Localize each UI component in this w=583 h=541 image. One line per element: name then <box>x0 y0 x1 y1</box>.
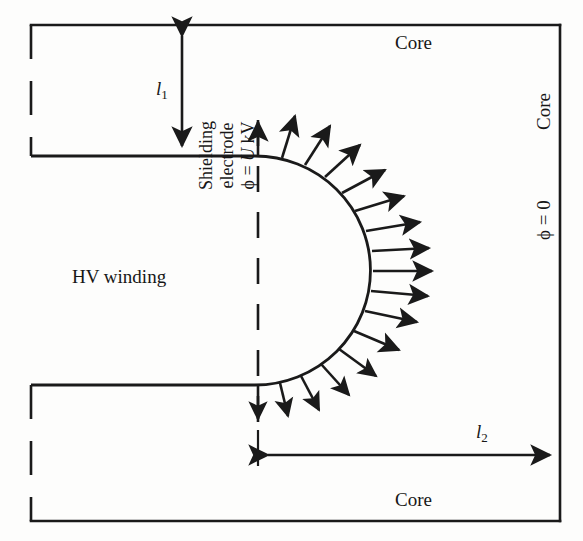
field-arrow <box>305 126 330 165</box>
label-phi-zero: ϕ = 0 <box>533 200 555 240</box>
field-arrow <box>366 222 420 231</box>
label-dimension-l1: l1 <box>156 78 168 102</box>
label-shielding-electrode-potential: ϕ = U kV <box>238 121 259 190</box>
label-core-top: Core <box>395 32 432 54</box>
label-core-bottom: Core <box>395 489 432 511</box>
label-l1-subscript: 1 <box>161 87 168 102</box>
label-shielding-electrode-line1: Shielding <box>196 121 217 190</box>
label-l2-subscript: 2 <box>481 430 488 445</box>
dimension-l2-arrow <box>258 430 550 466</box>
label-shielding-electrode: Shielding electrode ϕ = U kV <box>196 121 260 190</box>
field-arrow <box>372 248 429 251</box>
field-arrow <box>342 170 385 193</box>
label-electrode-phi-prefix: ϕ = <box>238 161 258 190</box>
field-arrow <box>354 331 399 350</box>
field-arrow <box>355 196 404 211</box>
field-arrow <box>339 349 376 376</box>
field-arrow <box>301 376 319 410</box>
field-arrow <box>365 311 417 322</box>
field-arrow <box>371 291 428 296</box>
figure-root: Core Core HV winding Core ϕ = 0 Shieldin… <box>0 0 583 541</box>
label-hv-winding: HV winding <box>72 266 166 288</box>
label-core-right: Core <box>533 93 555 130</box>
field-arrow <box>325 145 360 177</box>
label-electrode-voltage-symbol: U <box>238 148 258 161</box>
label-electrode-voltage-unit: kV <box>238 121 258 148</box>
label-shielding-electrode-line2: electrode <box>217 121 238 190</box>
field-arrow <box>280 383 288 416</box>
field-arrow <box>321 364 349 395</box>
field-arrow-group <box>258 116 432 419</box>
field-arrow <box>282 116 295 158</box>
label-dimension-l2: l2 <box>476 421 488 445</box>
